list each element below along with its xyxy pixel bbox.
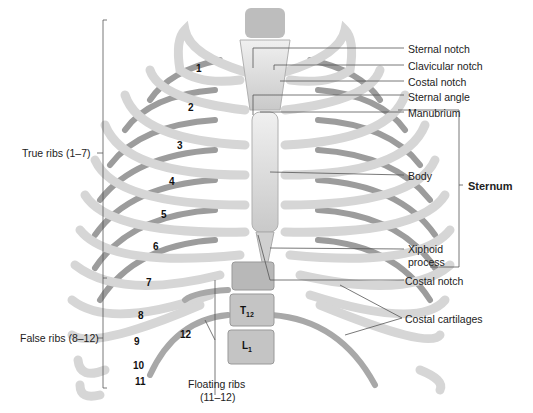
rib-number-12: 12 — [180, 329, 191, 340]
costal-notch-lower-label: Costal notch — [405, 275, 463, 287]
xiphoid-label-line2: process — [408, 256, 445, 268]
clavicular-notch-label: Clavicular notch — [408, 60, 483, 72]
costal-cartilages-label: Costal cartilages — [405, 313, 483, 325]
xiphoid-label-line1: Xiphoid — [408, 243, 443, 255]
rib-number-1: 1 — [196, 63, 202, 74]
rib-number-3: 3 — [177, 140, 183, 151]
sternum-shape — [240, 8, 290, 262]
floating-ribs-label-line1: Floating ribs — [188, 378, 245, 390]
rib-number-5: 5 — [161, 209, 167, 220]
rib-number-8: 8 — [138, 310, 144, 321]
false-ribs-label: False ribs (8–12) — [20, 332, 99, 344]
sternal-notch-label: Sternal notch — [408, 43, 470, 55]
sternal-angle-label: Sternal angle — [408, 91, 470, 103]
body-label: Body — [408, 170, 432, 182]
rib-number-2: 2 — [188, 102, 194, 113]
rib-number-4: 4 — [169, 176, 175, 187]
rib-number-9: 9 — [134, 336, 140, 347]
costal-notch-upper-label: Costal notch — [408, 76, 466, 88]
rib-number-10: 10 — [133, 360, 144, 371]
sternum-label: Sternum — [468, 180, 513, 192]
vertebra-t12-label: T12 — [240, 305, 254, 318]
rib-number-6: 6 — [153, 241, 159, 252]
vertebra-l1-label: L1 — [242, 340, 252, 353]
true-ribs-label: True ribs (1–7) — [22, 147, 90, 159]
rib-number-7: 7 — [146, 277, 152, 288]
floating-ribs-label-line2: (11–12) — [200, 391, 235, 403]
rib-cage-diagram: True ribs (1–7) False ribs (8–12) Sterna… — [0, 0, 533, 413]
manubrium-label: Manubrium — [408, 107, 461, 119]
rib-number-11: 11 — [135, 376, 146, 387]
